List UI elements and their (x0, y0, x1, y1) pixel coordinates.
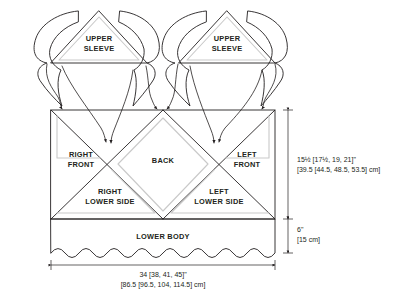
width-imperial-label: 34 [38, 41, 45]" (139, 271, 187, 279)
upper-sleeve-left-label-line2: SLEEVE (212, 44, 243, 53)
left-front-label-line1: LEFT (237, 150, 257, 159)
left-lower-side-label-line1: LEFT (209, 187, 229, 196)
body-height-metric-label: [39.5 [44.5, 48.5, 53.5] cm] (297, 166, 380, 174)
upper-sleeve-right-label-line2: SLEEVE (84, 44, 115, 53)
lower-body-height-imperial-label: 6" (297, 226, 304, 233)
right-front-label-line1: RIGHT (69, 150, 93, 159)
width-metric-label: [86.5 [96.5, 104, 114.5] cm] (121, 281, 206, 289)
right-lower-side-label-line2: LOWER SIDE (85, 197, 134, 206)
lower-body-label: LOWER BODY (136, 232, 189, 241)
garment-schematic-diagram: UPPER SLEEVE UPPER SLEEVE (0, 0, 394, 291)
back-label: BACK (152, 156, 175, 165)
schematic-svg: UPPER SLEEVE UPPER SLEEVE (0, 0, 394, 291)
body-height-imperial-label: 15½ [17½, 19, 21]" (297, 156, 356, 164)
upper-sleeve-left-label-line1: UPPER (214, 34, 241, 43)
left-lower-side-label-line2: LOWER SIDE (194, 197, 243, 206)
left-front-label-line2: FRONT (234, 160, 261, 169)
right-front-label-line2: FRONT (68, 160, 95, 169)
upper-sleeve-right-label-line1: UPPER (86, 34, 113, 43)
right-lower-side-label-line1: RIGHT (98, 187, 122, 196)
lower-body-height-metric-label: [15 cm] (297, 236, 320, 244)
